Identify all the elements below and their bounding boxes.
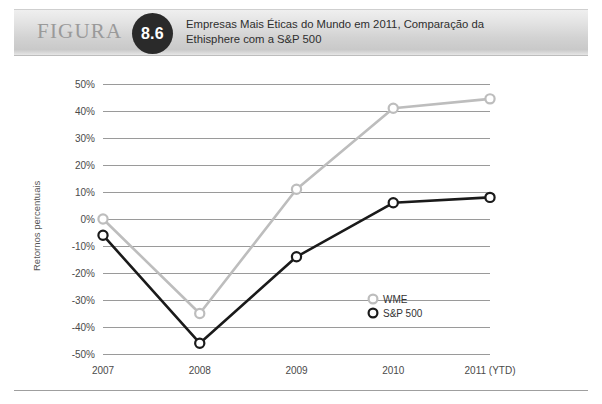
legend-label: S&P 500 <box>383 308 423 319</box>
y-tick-label: -20% <box>72 268 95 279</box>
data-series <box>98 94 494 348</box>
y-axis-title: Retornos percentuais <box>31 180 42 271</box>
data-point-marker <box>98 231 107 240</box>
data-point-marker <box>98 214 107 223</box>
x-tick-label: 2008 <box>189 365 212 376</box>
data-point-marker <box>485 193 494 202</box>
y-axis-ticks: 50%40%30%20%10%0%-10%-20%-30%-40%-50% <box>72 79 95 360</box>
data-point-marker <box>292 185 301 194</box>
y-tick-label: 50% <box>75 79 95 90</box>
bottom-divider <box>14 390 588 391</box>
chart-legend: WMES&P 500 <box>369 294 423 319</box>
figure-title-line-1: Empresas Mais Éticas do Mundo em 2011, C… <box>186 17 578 32</box>
y-tick-label: -40% <box>72 322 95 333</box>
y-tick-label: 30% <box>75 133 95 144</box>
line-chart: 50%40%30%20%10%0%-10%-20%-30%-40%-50% 20… <box>0 56 602 376</box>
data-point-marker <box>292 252 301 261</box>
data-point-marker <box>389 198 398 207</box>
chart-container: 50%40%30%20%10%0%-10%-20%-30%-40%-50% 20… <box>0 56 602 376</box>
series-line <box>103 99 490 314</box>
data-point-marker <box>389 104 398 113</box>
y-tick-label: 0% <box>81 214 96 225</box>
figure-number-badge: 8.6 <box>132 13 173 54</box>
figure-header-band: FIGURA 8.6 Empresas Mais Éticas do Mundo… <box>14 9 588 56</box>
y-tick-label: 40% <box>75 106 95 117</box>
x-tick-label: 2009 <box>285 365 308 376</box>
figure-title: Empresas Mais Éticas do Mundo em 2011, C… <box>186 17 578 46</box>
data-point-marker <box>195 309 204 318</box>
figure-title-line-2: Ethisphere com a S&P 500 <box>186 32 578 47</box>
y-tick-label: -10% <box>72 241 95 252</box>
legend-label: WME <box>383 294 408 305</box>
legend-marker <box>369 295 378 304</box>
legend-marker <box>369 309 378 318</box>
y-tick-label: -30% <box>72 295 95 306</box>
grid-lines <box>103 84 490 354</box>
data-point-marker <box>195 339 204 348</box>
y-tick-label: -50% <box>72 349 95 360</box>
data-point-marker <box>485 94 494 103</box>
x-axis-ticks: 20072008200920102011 (YTD) <box>92 365 516 376</box>
y-tick-label: 20% <box>75 160 95 171</box>
figura-label: FIGURA <box>37 19 122 44</box>
y-tick-label: 10% <box>75 187 95 198</box>
x-tick-label: 2007 <box>92 365 115 376</box>
x-tick-label: 2011 (YTD) <box>465 365 516 376</box>
x-tick-label: 2010 <box>382 365 405 376</box>
